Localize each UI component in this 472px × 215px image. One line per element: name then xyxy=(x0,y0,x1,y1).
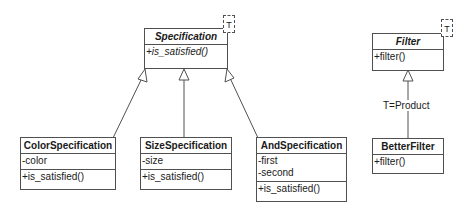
class-size-specification[interactable]: SizeSpecification -size +is_satisfied() xyxy=(140,137,232,190)
methods-section: +filter() xyxy=(373,50,443,65)
method: +is_satisfied() xyxy=(22,171,113,183)
attribute: -size xyxy=(142,155,229,167)
class-specification[interactable]: Specification +is_satisfied() xyxy=(144,28,228,69)
generalization-color-to-spec xyxy=(113,78,142,138)
class-name: Filter xyxy=(373,34,443,50)
attributes-section: -color xyxy=(21,154,115,170)
attributes-section: -size xyxy=(141,154,231,170)
template-parameter: T xyxy=(441,19,453,37)
attribute: -second xyxy=(258,167,344,179)
methods-section: +is_satisfied() xyxy=(21,170,115,185)
method: +filter() xyxy=(374,156,441,168)
methods-section: +is_satisfied() xyxy=(257,182,346,197)
binding-label: T=Product xyxy=(383,100,429,111)
attribute: -color xyxy=(22,155,113,167)
method: +is_satisfied() xyxy=(142,171,229,183)
class-filter[interactable]: Filter +filter() xyxy=(372,33,444,71)
class-name: SizeSpecification xyxy=(141,138,231,154)
generalization-arrowhead-icon xyxy=(179,69,189,80)
class-name: Specification xyxy=(145,29,227,45)
attribute: -first xyxy=(258,155,344,167)
methods-section: +is_satisfied() xyxy=(141,170,231,185)
class-name: AndSpecification xyxy=(257,138,346,154)
class-name: BetterFilter xyxy=(373,139,443,155)
generalization-arrowhead-icon xyxy=(138,69,147,82)
methods-section: +filter() xyxy=(373,155,443,170)
generalization-and-to-spec xyxy=(230,78,258,138)
method: +is_satisfied() xyxy=(146,46,225,58)
class-better-filter[interactable]: BetterFilter +filter() xyxy=(372,138,444,174)
class-name: ColorSpecification xyxy=(21,138,115,154)
method: +is_satisfied() xyxy=(258,183,344,195)
class-and-specification[interactable]: AndSpecification -first -second +is_sati… xyxy=(256,137,347,202)
attributes-section: -first -second xyxy=(257,154,346,182)
template-parameter: T xyxy=(223,15,235,33)
methods-section: +is_satisfied() xyxy=(145,45,227,60)
generalization-arrowhead-icon xyxy=(225,69,234,82)
method: +filter() xyxy=(374,51,441,63)
class-color-specification[interactable]: ColorSpecification -color +is_satisfied(… xyxy=(20,137,116,190)
generalization-arrowhead-icon xyxy=(403,70,413,81)
